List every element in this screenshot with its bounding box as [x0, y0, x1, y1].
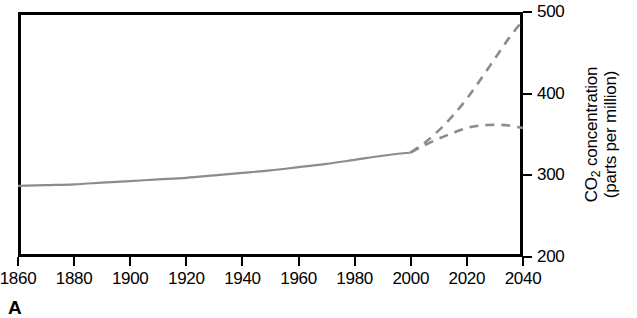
x-axis-tick: [129, 257, 131, 266]
y-axis-title: CO2 concentration (parts per million): [573, 12, 629, 257]
x-axis-tick-label: 1880: [44, 269, 104, 289]
x-axis-tick-label: 1940: [212, 269, 272, 289]
y-axis-title-concentration: concentration: [582, 67, 601, 171]
x-axis-tick: [354, 257, 356, 266]
x-axis-tick-label: 1980: [325, 269, 385, 289]
y-axis-title-co2: CO: [582, 177, 601, 202]
x-axis-tick: [17, 257, 19, 266]
y-axis-tick-label: 500: [537, 2, 564, 22]
x-axis-tick: [298, 257, 300, 266]
panel-letter: A: [8, 298, 22, 317]
y-axis-title-subscript: 2: [589, 171, 603, 178]
x-axis-tick-label: 2040: [493, 269, 553, 289]
x-axis-tick: [466, 257, 468, 266]
y-axis-title-line-2: (parts per million): [601, 71, 620, 199]
y-axis-tick-label: 400: [537, 84, 564, 104]
x-axis-tick-label: 1920: [156, 269, 216, 289]
x-axis-tick-label: 1960: [269, 269, 329, 289]
y-axis-title-line-1: CO2 concentration: [582, 67, 601, 203]
y-axis-tick: [523, 11, 532, 13]
x-axis-tick: [185, 257, 187, 266]
y-axis-tick: [523, 93, 532, 95]
y-axis-tick: [523, 174, 532, 176]
x-axis-tick: [73, 257, 75, 266]
x-axis-tick: [410, 257, 412, 266]
figure-panel: 1860188019001920194019601980200020202040…: [0, 0, 637, 318]
x-axis-tick-label: 2000: [381, 269, 441, 289]
x-axis-tick-label: 1860: [0, 269, 48, 289]
y-axis-tick-label: 200: [537, 247, 564, 267]
x-axis-tick-label: 2020: [437, 269, 497, 289]
plot-frame: [18, 12, 523, 257]
y-axis-tick: [523, 256, 532, 258]
x-axis-tick-label: 1900: [100, 269, 160, 289]
x-axis-tick: [522, 257, 524, 266]
x-axis-tick: [241, 257, 243, 266]
y-axis-tick-label: 300: [537, 165, 564, 185]
